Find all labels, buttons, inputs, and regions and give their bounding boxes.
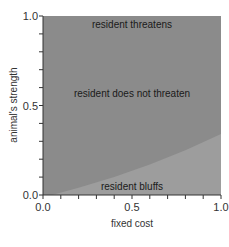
x-tick-label-2: 1.0	[213, 201, 228, 213]
chart: 0.0 0.5 1.0 0.0 0.5 1.0 fixed cost anima…	[0, 0, 229, 247]
y-tick-label-1: 0.5	[23, 100, 38, 112]
label-resident-threatens: resident threatens	[92, 19, 172, 30]
label-resident-bluffs: resident bluffs	[101, 181, 163, 192]
y-tick-label-2: 1.0	[23, 10, 38, 22]
y-tick-label-0: 0.0	[23, 189, 38, 201]
x-tick-label-0: 0.0	[35, 201, 50, 213]
label-resident-does-not-threaten: resident does not threaten	[74, 88, 190, 99]
x-axis-label: fixed cost	[111, 218, 153, 229]
x-tick-label-1: 0.5	[124, 201, 139, 213]
y-axis-label: animal's strength	[8, 67, 19, 142]
